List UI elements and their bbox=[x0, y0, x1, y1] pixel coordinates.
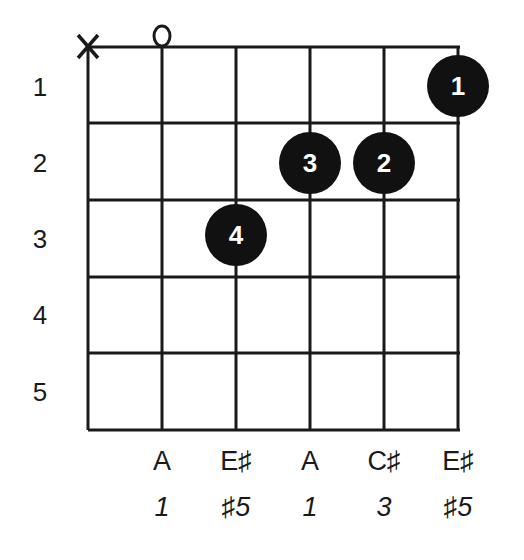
fret-number: 2 bbox=[28, 148, 52, 179]
fret-number: 4 bbox=[28, 300, 52, 331]
finger-label: 3 bbox=[290, 148, 330, 178]
note-label: C♯ bbox=[354, 446, 414, 477]
finger-label: 1 bbox=[438, 71, 478, 101]
finger-label: 4 bbox=[216, 220, 256, 250]
note-label: A bbox=[132, 446, 192, 477]
interval-label: 1 bbox=[280, 492, 340, 523]
note-label: A bbox=[280, 446, 340, 477]
note-label: E♯ bbox=[428, 446, 488, 477]
note-label: E♯ bbox=[206, 446, 266, 477]
interval-label: 1 bbox=[132, 492, 192, 523]
interval-label: ♯5 bbox=[428, 492, 488, 523]
fret-number: 3 bbox=[28, 224, 52, 255]
interval-label: 3 bbox=[354, 492, 414, 523]
fret-number: 5 bbox=[28, 377, 52, 408]
interval-label: ♯5 bbox=[206, 492, 266, 523]
finger-label: 2 bbox=[364, 148, 404, 178]
chord-diagram: 1 2 3 4 1 2 3 4 5 A E♯ A C♯ E♯ 1 ♯5 1 3 … bbox=[0, 0, 524, 560]
open-string-icon bbox=[154, 26, 170, 46]
fret-number: 1 bbox=[28, 72, 52, 103]
